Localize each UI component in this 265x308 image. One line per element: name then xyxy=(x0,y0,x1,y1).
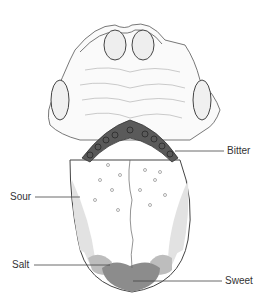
tonsil-right xyxy=(193,80,211,120)
vallecula-right xyxy=(132,30,154,60)
vallecula-left xyxy=(104,30,126,60)
tonsil-left xyxy=(51,80,69,120)
tongue-diagram xyxy=(0,0,265,308)
bitter-label: Bitter xyxy=(227,145,250,157)
salt-label: Salt xyxy=(12,259,29,271)
sour-label: Sour xyxy=(10,191,31,203)
sweet-label: Sweet xyxy=(225,275,253,287)
